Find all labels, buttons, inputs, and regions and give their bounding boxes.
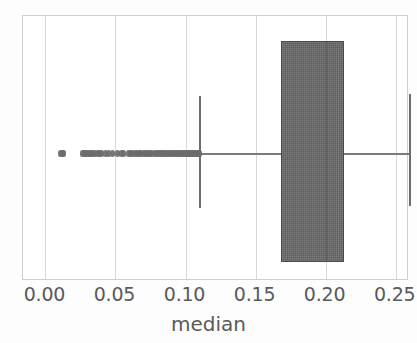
x-axis-tick-labels: 0.000.050.100.150.200.25 (0, 283, 417, 309)
boxplot-figure: 0.000.050.100.150.200.25 median (0, 0, 417, 343)
gridline-0.05 (115, 16, 116, 279)
median-line (326, 41, 327, 262)
box-rect (281, 41, 344, 262)
x-axis-title: median (0, 312, 417, 336)
gridline-0.25 (396, 16, 397, 279)
x-tick-label-0.10: 0.10 (164, 283, 206, 305)
outlier-point (197, 150, 202, 157)
gridline-0.10 (186, 16, 187, 279)
x-tick-label-0.00: 0.00 (24, 283, 66, 305)
whisker-cap-high (409, 94, 411, 206)
gridline-0.15 (256, 16, 257, 279)
x-tick-label-0.25: 0.25 (374, 283, 416, 305)
gridline-0.00 (45, 16, 46, 279)
x-tick-label-0.05: 0.05 (94, 283, 136, 305)
x-tick-label-0.15: 0.15 (234, 283, 276, 305)
x-tick-label-0.20: 0.20 (304, 283, 346, 305)
plot-area (22, 15, 408, 280)
outlier-point (61, 150, 66, 157)
